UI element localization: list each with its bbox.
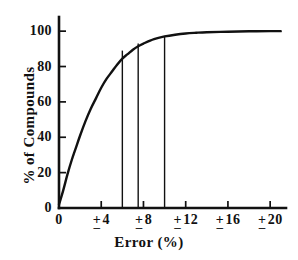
- y-tick-label: 100: [8, 23, 52, 39]
- plus-minus-icon: +–: [258, 215, 267, 225]
- x-tick-label: +–16: [216, 212, 241, 228]
- plus-minus-icon: +–: [93, 215, 102, 225]
- plus-minus-icon: +–: [173, 215, 182, 225]
- axes-group: [59, 17, 286, 208]
- x-tick-value: 16: [226, 212, 241, 227]
- drop-lines: [122, 36, 164, 208]
- y-axis-title: % of Compounds: [21, 46, 38, 206]
- x-tick-value: 20: [268, 212, 283, 227]
- x-tick-value: 0: [55, 212, 62, 227]
- x-tick-label: +–8: [135, 212, 152, 228]
- plus-minus-icon: +–: [216, 215, 225, 225]
- x-axis-title: Error (%): [0, 234, 298, 251]
- x-tick-label: +–20: [258, 212, 283, 228]
- x-tick-value: 12: [183, 212, 198, 227]
- x-tick-value: 4: [103, 212, 110, 227]
- x-tick-label: 0: [55, 212, 62, 228]
- cumulative-curve: [59, 31, 281, 204]
- plus-minus-icon: +–: [135, 215, 144, 225]
- x-tick-label: +–12: [173, 212, 198, 228]
- x-tick-label: +–4: [93, 212, 110, 228]
- x-tick-value: 8: [145, 212, 152, 227]
- chart-figure: 020406080100 0+–4+–8+–12+–16+–20 % of Co…: [0, 0, 298, 260]
